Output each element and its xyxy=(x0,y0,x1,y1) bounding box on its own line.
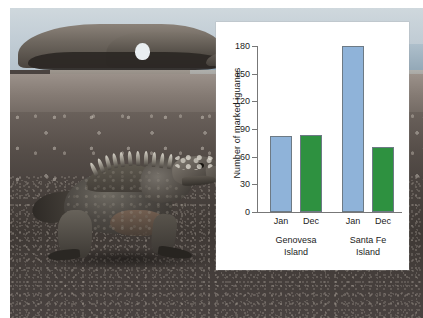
bar-genovesa-island-dec xyxy=(300,135,322,212)
x-tick-label-3: Dec xyxy=(365,216,401,226)
iguana-jaw xyxy=(182,175,217,186)
crest-spike-4 xyxy=(119,152,125,167)
crest-spike-5 xyxy=(127,151,132,166)
bar-column xyxy=(300,46,322,212)
crest-spike-6 xyxy=(136,151,141,166)
bar-chart-panel: Number of marked iguanas 030609012015018… xyxy=(216,22,409,270)
plot-area: Number of marked iguanas 030609012015018… xyxy=(216,22,409,270)
bar-column xyxy=(270,46,292,212)
bar-genovesa-island-jan xyxy=(270,136,292,212)
crest-spike-7 xyxy=(144,151,148,166)
x-axis-line xyxy=(257,212,402,213)
y-tick-label-180: 180 xyxy=(218,41,250,51)
cliff-shadow xyxy=(28,52,228,70)
x-tick-label-1: Dec xyxy=(293,216,329,226)
figure-container: Number of marked iguanas 030609012015018… xyxy=(0,0,423,318)
y-tick-label-90: 90 xyxy=(218,124,250,134)
bar-santa-fe-island-dec xyxy=(372,147,394,212)
bars-area xyxy=(258,46,402,212)
iguana-salt-crust xyxy=(174,154,214,170)
group-label-line1: Santa Fe xyxy=(323,234,413,246)
y-tick-label-60: 60 xyxy=(218,152,250,162)
y-tick-label-150: 150 xyxy=(218,69,250,79)
group-label-1: Santa FeIsland xyxy=(323,234,413,258)
rock-arch-opening xyxy=(135,43,150,60)
y-tick-label-120: 120 xyxy=(218,96,250,106)
y-tick-label-0: 0 xyxy=(218,207,250,217)
bar-column xyxy=(342,46,364,212)
bar-column xyxy=(372,46,394,212)
marine-iguana xyxy=(32,136,232,296)
y-tick-label-30: 30 xyxy=(218,179,250,189)
group-label-line2: Island xyxy=(323,246,413,258)
bar-santa-fe-island-jan xyxy=(342,46,364,212)
